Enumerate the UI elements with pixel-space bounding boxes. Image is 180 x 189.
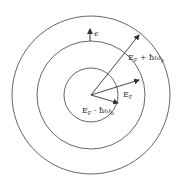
outer-radius-arrow xyxy=(91,35,139,95)
inner-energy-label: EF - ħωh xyxy=(82,106,115,116)
epsilon-label: ϵ xyxy=(94,29,99,38)
middle-energy-label: EF xyxy=(123,90,133,100)
inner-radius-arrow xyxy=(91,95,118,103)
energy-shell-diagram: ϵ EF + ħωh EF EF - ħωh xyxy=(0,0,180,189)
outer-energy-label: EF + ħωh xyxy=(128,53,165,63)
